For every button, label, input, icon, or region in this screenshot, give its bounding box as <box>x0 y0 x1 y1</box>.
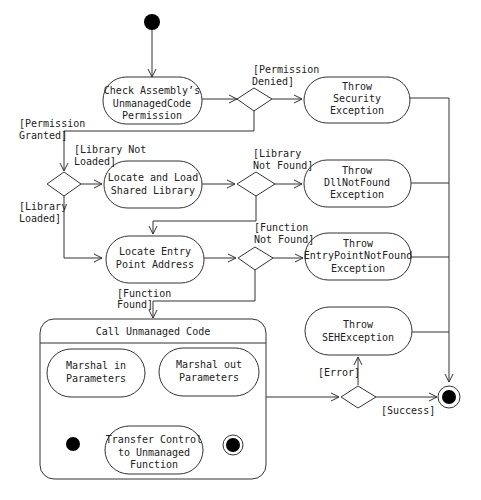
throw-security-line-3: Exception <box>330 105 384 116</box>
guard-function-found-1: [Function <box>117 288 171 299</box>
guard-library-not-found-1: [Library <box>253 148 301 159</box>
marshal-out-line-2: Parameters <box>179 372 239 383</box>
guard-success: [Success] <box>381 405 435 416</box>
action-throw-entrypointnotfound: Throw EntryPointNotFound Exception <box>304 233 412 280</box>
transfer-line-2: to Unmanaged <box>118 447 190 458</box>
check-permission-line-2: UnmanagedCode <box>113 98 191 109</box>
decision-function-found <box>238 247 273 270</box>
guard-permission-denied-1: [Permission <box>253 64 319 75</box>
guard-error: [Error] <box>318 367 360 378</box>
guard-library-not-found-2: Not Found] <box>253 160 313 171</box>
throw-entry-line-1: Throw <box>343 238 374 249</box>
locate-entry-line-2: Point Address <box>116 259 194 270</box>
action-marshal-out: Marshal out Parameters <box>159 348 259 396</box>
guard-function-not-found-1: [Function <box>254 222 308 233</box>
throw-seh-line-2: SEHException <box>322 332 394 343</box>
guard-library-loaded-2: Loaded] <box>19 213 61 224</box>
action-throw-dllnotfound: Throw DllNotFound Exception <box>304 160 411 207</box>
throw-entry-line-2: EntryPointNotFound <box>304 250 412 261</box>
marshal-in-line-1: Marshal in <box>66 360 126 371</box>
final-node <box>438 386 460 408</box>
guard-function-found-2: Found] <box>117 299 153 310</box>
throw-seh-line-1: Throw <box>343 319 374 330</box>
throw-dll-line-3: Exception <box>330 189 384 200</box>
action-check-permission: Check Assembly’s UnmanagedCode Permissio… <box>103 77 202 124</box>
decision-library-found <box>237 172 275 196</box>
locate-entry-line-1: Locate Entry <box>119 246 191 257</box>
action-transfer-control: Transfer Control to Unmanaged Function <box>105 426 203 474</box>
locate-library-line-2: Shared Library <box>111 185 195 196</box>
guard-library-loaded-1: [Library <box>19 201 67 212</box>
action-locate-entry: Locate Entry Point Address <box>106 236 204 283</box>
guard-function-not-found-2: Not Found] <box>254 234 314 245</box>
action-locate-library: Locate and Load Shared Library <box>104 161 202 208</box>
guard-library-not-loaded-1: [Library Not <box>74 144 146 155</box>
inner-initial-node <box>66 437 80 451</box>
activity-call-unmanaged-code: Call Unmanaged Code Marshal in Parameter… <box>40 319 266 479</box>
marshal-out-line-1: Marshal out <box>176 359 242 370</box>
check-permission-line-1: Check Assembly’s <box>104 85 200 96</box>
throw-entry-line-3: Exception <box>331 263 385 274</box>
decision-call-result <box>341 386 376 408</box>
decision-permission <box>237 88 272 111</box>
action-throw-seh: Throw SEHException <box>305 307 412 355</box>
guard-permission-granted-1: [Permission <box>19 118 85 129</box>
check-permission-line-3: Permission <box>122 110 182 121</box>
transfer-line-1: Transfer Control <box>106 434 202 445</box>
locate-library-line-1: Locate and Load <box>108 172 198 183</box>
guard-permission-denied-2: Denied] <box>252 76 294 87</box>
throw-dll-line-1: Throw <box>342 165 373 176</box>
action-marshal-in: Marshal in Parameters <box>47 349 145 397</box>
edge-loaded-to-locate-entry <box>64 196 102 258</box>
throw-security-line-2: Security <box>333 93 381 104</box>
activity-diagram: Check Assembly’s UnmanagedCode Permissio… <box>0 0 481 500</box>
marshal-in-line-2: Parameters <box>66 373 126 384</box>
guard-library-not-loaded-2: Loaded] <box>74 156 116 167</box>
transfer-line-3: Function <box>130 459 178 470</box>
initial-node <box>144 14 160 30</box>
decision-library-loaded <box>47 172 81 196</box>
action-throw-security: Throw Security Exception <box>304 77 410 123</box>
inner-final-node <box>223 435 243 455</box>
call-unmanaged-title: Call Unmanaged Code <box>96 326 210 337</box>
guard-permission-granted-2: Granted] <box>19 130 67 141</box>
throw-dll-line-2: DllNotFound <box>324 177 390 188</box>
throw-security-line-1: Throw <box>342 81 373 92</box>
